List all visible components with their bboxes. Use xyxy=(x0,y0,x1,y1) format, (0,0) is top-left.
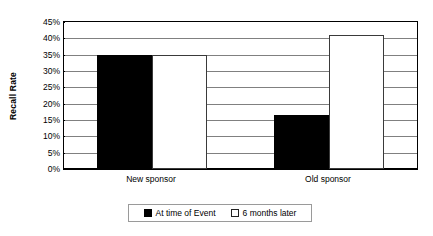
x-axis-category-label: Old sponsor xyxy=(305,174,351,184)
bar-old-sponsor-series-2 xyxy=(329,35,384,169)
empty-square-icon xyxy=(231,209,239,217)
y-axis-tick-labels: 45%40%35%30%25%20%15%10%5%0% xyxy=(26,21,60,170)
y-axis-tick-label: 15% xyxy=(43,116,60,125)
y-axis-tick-mark xyxy=(64,120,65,121)
y-axis-tick-mark xyxy=(64,136,65,137)
legend-item-1[interactable]: At time of Event xyxy=(144,209,216,218)
y-axis-tick-label: 10% xyxy=(43,132,60,141)
plot-inner xyxy=(64,22,417,169)
bar-new-sponsor-series-1 xyxy=(97,55,152,169)
y-axis-tick-label: 35% xyxy=(43,50,60,59)
y-axis-tick-mark xyxy=(64,38,65,39)
legend-item-2[interactable]: 6 months later xyxy=(231,209,297,218)
y-axis-tick-label: 25% xyxy=(43,83,60,92)
legend-item-label: At time of Event xyxy=(156,209,216,218)
y-axis-tick-mark xyxy=(64,104,65,105)
bar-chart: Recall Rate 45%40%35%30%25%20%15%10%5%0%… xyxy=(0,0,433,236)
y-axis-tick-mark xyxy=(64,55,65,56)
filled-square-icon xyxy=(144,209,152,217)
plot-area xyxy=(63,21,418,170)
y-axis-tick-label: 5% xyxy=(48,148,60,157)
chart-legend: At time of Event6 months later xyxy=(128,204,312,222)
y-axis-tick-mark xyxy=(64,22,65,23)
y-axis-tick-mark xyxy=(64,87,65,88)
bar-new-sponsor-series-2 xyxy=(152,55,207,169)
y-axis-tick-label: 20% xyxy=(43,99,60,108)
y-axis-tick-label: 0% xyxy=(48,165,60,174)
x-axis-category-labels: New sponsorOld sponsor xyxy=(63,174,418,190)
y-axis-tick-label: 45% xyxy=(43,18,60,27)
legend-item-label: 6 months later xyxy=(243,209,297,218)
bar-old-sponsor-series-1 xyxy=(274,115,329,169)
y-axis-title: Recall Rate xyxy=(6,46,20,146)
y-axis-tick-label: 30% xyxy=(43,67,60,76)
y-axis-tick-label: 40% xyxy=(43,34,60,43)
x-axis-category-label: New sponsor xyxy=(126,174,176,184)
y-axis-tick-mark xyxy=(64,153,65,154)
y-axis-tick-mark xyxy=(64,71,65,72)
